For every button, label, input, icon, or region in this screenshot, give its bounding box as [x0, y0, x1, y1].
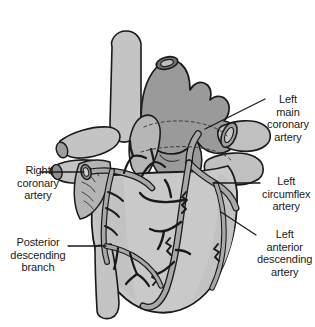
label-line: branch: [2, 261, 74, 274]
label-line: coronary: [6, 177, 70, 190]
label-line: artery: [267, 131, 309, 144]
label-line: anterior: [257, 241, 312, 254]
label-line: Posterior: [2, 236, 74, 249]
label-line: Left: [267, 93, 309, 106]
label-line: Right: [6, 164, 70, 177]
label-line: circumflex: [262, 188, 311, 201]
label-posterior-descending-branch: Posterior descending branch: [2, 236, 74, 274]
label-line: descending: [257, 253, 312, 266]
coronary-artery-diagram: Left main coronary artery Left circumfle…: [0, 0, 315, 327]
label-line: artery: [262, 200, 311, 213]
label-left-circumflex-artery: Left circumflex artery: [262, 175, 311, 213]
label-line: artery: [257, 266, 312, 279]
label-line: Left: [262, 175, 311, 188]
label-line: main: [267, 106, 309, 119]
label-line: Left: [257, 228, 312, 241]
label-right-coronary-artery: Right coronary artery: [6, 164, 70, 202]
label-left-anterior-descending-artery: Left anterior descending artery: [257, 228, 312, 278]
label-line: coronary: [267, 118, 309, 131]
label-line: artery: [6, 189, 70, 202]
label-line: descending: [2, 249, 74, 262]
label-left-main-coronary-artery: Left main coronary artery: [267, 93, 309, 143]
